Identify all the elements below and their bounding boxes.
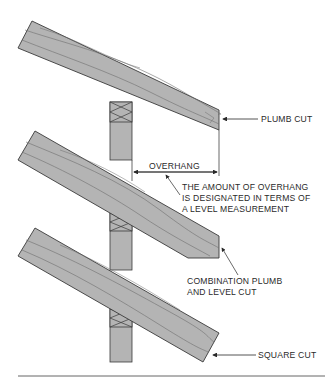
combination-cut-label-line-2: AND LEVEL CUT (187, 287, 257, 297)
combination-cut-label-line-1: COMBINATION PLUMB (187, 276, 282, 286)
diagram-graphics (0, 0, 336, 384)
square-cut-label: SQUARE CUT (258, 350, 316, 360)
rafter-tail-cuts-diagram: PLUMB CUT OVERHANG THE AMOUNT OF OVERHAN… (0, 0, 336, 384)
plumb-cut-label: PLUMB CUT (261, 114, 312, 124)
overhang-note-line-1: THE AMOUNT OF OVERHANG (182, 182, 308, 192)
post-top (110, 102, 132, 160)
overhang-note-line-2: IS DESIGNATED IN TERMS OF (182, 193, 310, 203)
combination-cut-leader (222, 248, 238, 275)
overhang-note-line-3: A LEVEL MEASUREMENT (182, 204, 289, 214)
overhang-label: OVERHANG (149, 161, 200, 171)
